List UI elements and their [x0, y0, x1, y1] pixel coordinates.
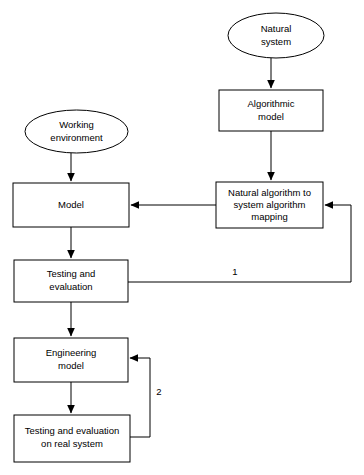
- engineering-model-label-line1: Engineering: [46, 347, 97, 358]
- node-algorithmic-model[interactable]: Algorithmic model: [219, 90, 323, 131]
- node-working-environment[interactable]: Working environment: [25, 110, 128, 153]
- testing-real-system-label-line1: Testing and evaluation: [25, 425, 120, 436]
- diagram-canvas: Natural system Algorithmic model Working…: [0, 0, 364, 475]
- natural-system-label-line1: Natural: [261, 23, 292, 34]
- working-environment-label-line2: environment: [50, 132, 103, 143]
- natural-system-label-line2: system: [261, 36, 291, 47]
- edge-testing-real-to-engineering-feedback: [130, 358, 150, 437]
- node-testing-real-system[interactable]: Testing and evaluation on real system: [14, 415, 130, 462]
- node-testing-and-evaluation[interactable]: Testing and evaluation: [14, 260, 128, 302]
- algorithmic-model-label-line1: Algorithmic: [248, 98, 295, 109]
- engineering-model-label-line2: model: [58, 360, 84, 371]
- algorithmic-model-label-line2: model: [258, 111, 284, 122]
- edge-label-2: 2: [156, 386, 161, 397]
- model-label: Model: [58, 199, 84, 210]
- testing-real-system-label-line2: on real system: [41, 438, 103, 449]
- node-engineering-model[interactable]: Engineering model: [14, 338, 128, 382]
- natural-algorithm-mapping-label-line2: system algorithm: [234, 199, 306, 210]
- testing-and-evaluation-label-line1: Testing and: [47, 268, 96, 279]
- natural-algorithm-mapping-label-line1: Natural algorithm to: [228, 187, 311, 198]
- node-natural-algorithm-mapping[interactable]: Natural algorithm to system algorithm ma…: [216, 182, 323, 228]
- testing-and-evaluation-label-line2: evaluation: [49, 281, 92, 292]
- node-model[interactable]: Model: [13, 183, 129, 227]
- flowchart-svg: Natural system Algorithmic model Working…: [0, 0, 364, 475]
- natural-algorithm-mapping-label-line3: mapping: [251, 211, 287, 222]
- edge-label-1: 1: [232, 266, 237, 277]
- node-natural-system[interactable]: Natural system: [228, 13, 324, 58]
- working-environment-label-line1: Working: [59, 119, 94, 130]
